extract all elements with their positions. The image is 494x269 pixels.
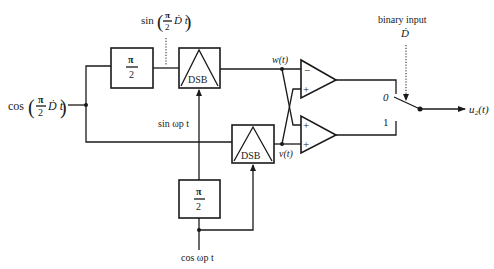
svg-text:2: 2 [38, 107, 43, 118]
svg-text:π: π [128, 54, 134, 65]
paren-right: ) [60, 96, 67, 119]
top-phase-shift-block: π 2 [111, 48, 153, 88]
svg-text:v(t): v(t) [279, 148, 294, 160]
svg-text:u₂(t): u₂(t) [469, 103, 489, 116]
svg-text:binary input: binary input [378, 14, 427, 25]
svg-text:cos ωp t: cos ωp t [181, 252, 214, 263]
input-label: cos ( π 2 Ḋ t ) [8, 94, 67, 119]
top-dsb-modulator: DSB [179, 48, 220, 88]
svg-text:1: 1 [383, 116, 389, 128]
svg-text:w(t): w(t) [272, 54, 289, 66]
svg-text:Ḋ: Ḋ [400, 27, 409, 39]
top-summer: − + [301, 60, 336, 98]
svg-text:sin ωp t: sin ωp t [158, 118, 189, 129]
svg-text:0: 0 [383, 91, 389, 103]
svg-text:DSB: DSB [241, 150, 261, 161]
bottom-phase-shift-block: π 2 [179, 180, 220, 218]
svg-text:): ) [185, 11, 191, 33]
block-diagram: cos ( π 2 Ḋ t ) π 2 sin ( π 2 Ḋ t ) DSB … [0, 0, 494, 269]
svg-text:2: 2 [196, 201, 201, 212]
paren-left: ( [28, 96, 35, 119]
svg-text:π: π [38, 94, 44, 105]
output-switch: 0 1 [383, 91, 423, 128]
svg-text:π: π [165, 10, 170, 20]
svg-text:+: + [303, 83, 309, 95]
svg-text:+: + [303, 119, 309, 131]
svg-text:DSB: DSB [188, 74, 208, 85]
svg-text:2: 2 [129, 69, 134, 80]
svg-text:(: ( [157, 11, 163, 33]
svg-text:2: 2 [165, 22, 170, 32]
svg-text:+: + [303, 138, 309, 150]
top-annotation-label: sin ( π 2 Ḋ t ) [141, 10, 191, 33]
svg-text:sin: sin [141, 14, 154, 26]
bottom-dsb-modulator: DSB [232, 125, 274, 163]
svg-text:π: π [196, 186, 202, 197]
bottom-summer: + + [301, 116, 336, 153]
svg-text:cos: cos [8, 99, 24, 113]
svg-text:−: − [304, 64, 310, 76]
